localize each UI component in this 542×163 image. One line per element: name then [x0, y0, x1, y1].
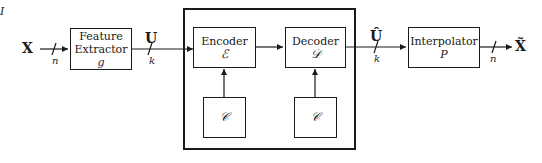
decoder-symbol: 𝒟 [311, 48, 321, 61]
feature-dim-label: k [149, 55, 155, 66]
feature-extractor-label-1: Feature [79, 30, 122, 43]
feature-extractor-symbol: g [97, 56, 104, 69]
feature-extractor-label-2: Extractor [75, 43, 128, 56]
decoder-block: Decoder 𝒟 [285, 27, 346, 68]
encoder-label: Encoder [201, 35, 248, 48]
decoder-codebook-symbol: 𝒞 [311, 111, 320, 124]
feature-signal-label: U [145, 30, 157, 46]
interpolator-block: Interpolator P [408, 27, 480, 68]
decoder-label: Decoder [292, 35, 339, 48]
encoder-block: Encoder ℰ [193, 27, 256, 68]
input-signal-label: X [22, 40, 33, 56]
output-signal-label: X̃ [515, 38, 526, 54]
interpolator-label: Interpolator [410, 35, 478, 48]
decoder-codebook-block: 𝒞 [294, 97, 337, 138]
encoder-codebook-symbol: 𝒞 [220, 111, 229, 124]
interpolator-symbol: P [440, 48, 447, 61]
reconstructed-dim-label: k [374, 53, 380, 64]
output-dim-label: n [490, 53, 496, 64]
encoder-symbol: ℰ [221, 48, 228, 61]
feature-extractor-block: Feature Extractor g [70, 28, 132, 70]
input-dim-label: n [52, 55, 58, 66]
encoder-codebook-block: 𝒞 [203, 97, 246, 138]
reconstructed-feature-label: Û [370, 28, 382, 44]
